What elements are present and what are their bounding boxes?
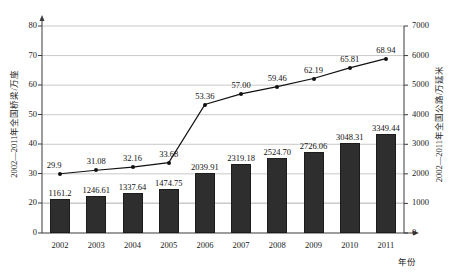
bar-2008 [267, 158, 287, 233]
bar-2011 [376, 134, 396, 233]
y-left-tick-20: 20 [13, 197, 37, 207]
x-axis-title: 年份 [398, 255, 416, 267]
line-value-label-2010: 65.81 [330, 54, 370, 64]
line-point-2006 [203, 103, 207, 107]
line-value-label-2008: 59.46 [257, 73, 297, 83]
y-left-tick-80: 80 [13, 20, 37, 30]
bar-2004 [123, 193, 143, 233]
x-tick-2002: 2002 [40, 240, 80, 250]
line-point-2004 [131, 165, 135, 169]
bar-value-label-2005: 1474.75 [146, 178, 192, 188]
y-left-tick-60: 60 [13, 79, 37, 89]
y-right-tick-5000: 5000 [412, 79, 442, 89]
x-tick-2011: 2011 [366, 240, 406, 250]
x-tick-2010: 2010 [330, 240, 370, 250]
x-tick-2006: 2006 [185, 240, 225, 250]
x-tick-2004: 2004 [113, 240, 153, 250]
bar-value-label-2009: 2726.06 [291, 141, 337, 151]
line-point-2007 [239, 92, 243, 96]
x-tick-2009: 2009 [294, 240, 334, 250]
line-point-2002 [58, 172, 62, 176]
line-value-label-2004: 32.16 [113, 153, 153, 163]
line-point-2005 [167, 161, 171, 165]
bar-2006 [195, 173, 215, 233]
y-right-tick-2000: 2000 [412, 168, 442, 178]
bar-2005 [159, 189, 179, 233]
line-value-label-2002: 29.9 [34, 160, 74, 170]
x-tick-2007: 2007 [221, 240, 261, 250]
x-tick-2005: 2005 [149, 240, 189, 250]
bar-2007 [231, 164, 251, 233]
line-point-2008 [275, 85, 279, 89]
line-value-label-2007: 57.00 [221, 80, 261, 90]
y-left-tick-70: 70 [13, 50, 37, 60]
y-right-tick-0: 0 [412, 227, 442, 237]
y-axis-left-title: 2002—2011年全国桥梁/万座 [7, 39, 19, 209]
line-value-label-2011: 68.94 [366, 45, 406, 55]
line-value-label-2005: 33.68 [149, 149, 189, 159]
line-point-2010 [348, 66, 352, 70]
y-right-tick-4000: 4000 [412, 109, 442, 119]
x-tick-2003: 2003 [76, 240, 116, 250]
y-right-tick-1000: 1000 [412, 197, 442, 207]
bar-value-label-2011: 3349.44 [363, 123, 409, 133]
line-value-label-2006: 53.36 [185, 91, 225, 101]
line-value-label-2009: 62.19 [294, 65, 334, 75]
y-left-tick-40: 40 [13, 138, 37, 148]
line-point-2009 [312, 77, 316, 81]
line-value-label-2003: 31.08 [76, 156, 116, 166]
y-left-tick-50: 50 [13, 109, 37, 119]
bar-2003 [86, 196, 106, 233]
line-point-2003 [94, 168, 98, 172]
x-tick-2008: 2008 [257, 240, 297, 250]
chart-canvas: 2002—2011年全国桥梁/万座 2002—2011年全国公路/万延米 年份 … [0, 0, 453, 278]
y-axis-right-title: 2002—2011年全国公路/万延米 [432, 39, 444, 209]
bar-2010 [340, 143, 360, 233]
bar-2009 [304, 152, 324, 233]
y-right-tick-6000: 6000 [412, 50, 442, 60]
bar-value-label-2010: 3048.31 [327, 132, 373, 142]
line-point-2011 [384, 57, 388, 61]
y-left-tick-0: 0 [13, 227, 37, 237]
y-right-tick-3000: 3000 [412, 138, 442, 148]
y-right-tick-7000: 7000 [412, 20, 442, 30]
bar-2002 [50, 199, 70, 233]
